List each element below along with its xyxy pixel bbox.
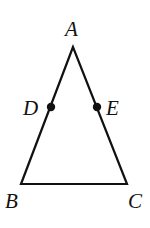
point-d-dot [47,103,55,111]
label-c: C [128,189,143,213]
triangle-diagram: A D E B C [0,0,150,228]
label-b: B [5,189,18,213]
label-a: A [63,17,78,41]
point-e-dot [93,103,101,111]
label-e: E [105,96,119,120]
label-d: D [22,96,38,120]
